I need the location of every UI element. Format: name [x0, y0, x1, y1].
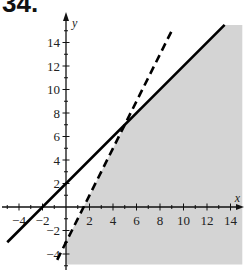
inequality-graph: −4−22468101214−4−22468101214xy	[0, 0, 244, 279]
x-tick-label: 12	[201, 213, 214, 228]
x-tick-label: 6	[133, 213, 140, 228]
x-tick-label: 2	[86, 213, 93, 228]
x-tick-label: 4	[110, 213, 117, 228]
x-tick-label: 14	[224, 213, 238, 228]
y-tick-label: 6	[54, 129, 61, 144]
y-axis-arrow-icon	[63, 12, 69, 21]
shaded-region	[66, 25, 242, 265]
y-tick-label: 8	[54, 106, 61, 121]
y-tick-label: 10	[47, 82, 60, 97]
y-tick-label: −2	[46, 223, 60, 238]
y-tick-label: 12	[47, 59, 60, 74]
y-tick-label: 4	[54, 153, 61, 168]
x-tick-label: 8	[157, 213, 164, 228]
x-axis-label: x	[234, 191, 241, 205]
y-axis-label: y	[71, 16, 78, 30]
y-tick-label: 14	[47, 35, 61, 50]
x-tick-label: 10	[177, 213, 190, 228]
